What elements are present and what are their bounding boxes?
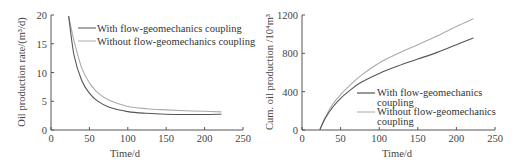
x-tick-label: 50 [335, 133, 346, 144]
x-tick-label: 100 [120, 133, 136, 144]
y-tick-label: 400 [282, 87, 298, 98]
right-legend-without-line2: coupling [377, 116, 414, 127]
y-tick-label: 0 [293, 125, 298, 136]
x-tick-label: 250 [235, 133, 251, 144]
left-chart: 05010015020025005101520 Time/d Oil produ… [16, 10, 256, 159]
left-legend-without: Without flow-geomechanics coupling [97, 36, 256, 47]
right-y-label: Cum. oil production /10⁴m³ [264, 14, 275, 130]
x-tick-label: 50 [84, 133, 95, 144]
y-tick-label: 10 [37, 68, 48, 79]
y-tick-label: 20 [37, 10, 48, 21]
x-tick-label: 150 [158, 133, 174, 144]
left-legend-with: With flow-geomechanics coupling [97, 23, 243, 34]
x-tick-label: 0 [299, 133, 304, 144]
x-tick-label: 0 [48, 133, 53, 144]
x-tick-label: 200 [197, 133, 213, 144]
x-tick-label: 200 [449, 133, 465, 144]
right-x-label: Time/d [382, 148, 413, 159]
y-tick-label: 15 [37, 39, 48, 50]
y-tick-label: 800 [282, 48, 298, 59]
y-tick-label: 1200 [277, 10, 298, 21]
x-tick-label: 150 [410, 133, 426, 144]
left-y-label: Oil production rate/(m³/d) [16, 17, 28, 127]
x-tick-label: 250 [487, 133, 503, 144]
chart-canvas: 05010015020025005101520 Time/d Oil produ… [0, 0, 518, 165]
left-x-label: Time/d [110, 148, 141, 159]
x-tick-label: 100 [371, 133, 387, 144]
right-chart: 05010015020025004008001200 Time/d Cum. o… [264, 10, 503, 159]
y-tick-label: 5 [42, 96, 47, 107]
y-tick-label: 0 [42, 125, 47, 136]
